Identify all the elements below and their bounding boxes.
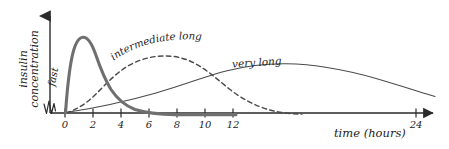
y-axis-label: insulin concentration	[18, 14, 40, 124]
x-tick-label-2: 2	[90, 119, 96, 130]
label-intermediate-long: intermediate long	[108, 30, 203, 62]
x-tick-label-24: 24	[410, 119, 423, 130]
curve-very-long	[66, 64, 435, 113]
x-tick-label-6: 6	[146, 119, 152, 130]
x-tick-label-8: 8	[174, 119, 180, 130]
y-axis-label-line2: concentration	[29, 14, 40, 124]
x-tick-label-12: 12	[227, 119, 240, 130]
insulin-action-curves-figure: intermediate long insulin concentration …	[0, 0, 449, 149]
x-tick-label-0: 0	[62, 119, 68, 130]
x-axis-label: time (hours)	[334, 128, 406, 140]
x-tick-label-4: 4	[118, 119, 124, 130]
x-tick-label-10: 10	[199, 119, 212, 130]
